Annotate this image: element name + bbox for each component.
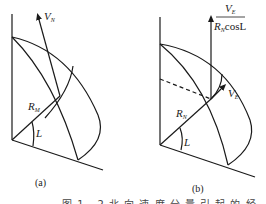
outer-arc [160,44,250,120]
figure-canvas: VN RM L (a) VE RNcosL VE RN L (b) [0,0,266,204]
angle-l-label-b: L [183,136,190,148]
caption-text: 图 1 - 2 北 向 速 度 分 量 引 起 的 经 纬 度 变 化 [62,197,266,204]
inner-meridian-arc [12,37,78,160]
angle-arc [32,122,34,146]
panel-a-label: (a) [35,177,46,189]
panel-b [160,17,255,177]
right-boundary-arc [228,120,252,165]
equator-line [160,145,255,177]
equator-line [12,140,103,170]
inner-meridian-arc [160,44,228,165]
angle-l-label-a: L [35,127,42,139]
tangent-arc [211,74,222,99]
rm-label: RM [27,100,41,113]
vn-label: VN [44,10,56,23]
ve-vector [211,86,224,99]
right-boundary-arc [78,115,101,160]
rn-label: RN [175,107,188,120]
ve-label: VE [228,87,239,100]
fraction-numerator: VE [225,2,236,15]
fraction-denominator: RNcosL [213,20,246,33]
figure-caption-partial: 图 1 - 2 北 向 速 度 分 量 引 起 的 经 纬 度 变 化 [0,197,266,204]
velocity-vector [38,16,60,96]
panel-a [12,14,103,170]
angle-arc [180,128,182,150]
panel-b-label: (b) [192,183,204,195]
